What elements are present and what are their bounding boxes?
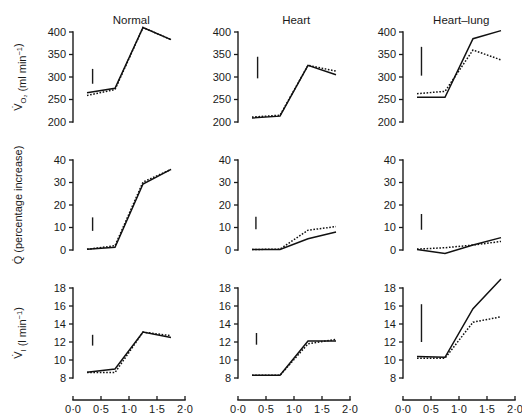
y-tick-label: 12	[219, 336, 231, 348]
panel-q-heart: 010203040	[219, 154, 336, 256]
y-axis-title-vi: V̇I (l min−1)	[12, 307, 28, 359]
y-tick-label: 40	[219, 154, 231, 166]
panel-vo2-heart: 200250300350400	[213, 26, 336, 128]
y-tick-label: 40	[384, 154, 396, 166]
y-tick-label: 18	[384, 282, 396, 294]
x-tick-label: 0·0	[395, 403, 411, 415]
x-tick-label: 1·0	[121, 403, 137, 415]
panel-vi-normal: 810121416180·00·51·01·52·0	[54, 282, 193, 415]
y-axis-title-q: Q̇ (percentage increase)	[12, 146, 24, 265]
y-tick-label: 350	[213, 48, 231, 60]
y-tick-label: 200	[378, 116, 396, 128]
y-tick-label: 16	[384, 300, 396, 312]
series-line-dotted	[252, 65, 336, 117]
y-tick-label: 18	[219, 282, 231, 294]
y-tick-label: 10	[384, 221, 396, 233]
y-tick-label: 300	[213, 71, 231, 83]
panel-vo2-normal: 200250300350400	[48, 26, 171, 128]
y-tick-label: 0	[225, 244, 231, 256]
y-tick-label: 0	[60, 244, 66, 256]
series-line-solid	[417, 279, 501, 357]
y-tick-label: 16	[54, 300, 66, 312]
y-tick-label: 30	[384, 176, 396, 188]
y-tick-label: 200	[48, 116, 66, 128]
y-axis-title-vi-text: V̇I (l min−1)	[12, 307, 28, 359]
x-tick-label: 1·5	[479, 403, 495, 415]
y-tick-label: 350	[378, 48, 396, 60]
panel-q-heartlung: 010203040	[384, 154, 501, 256]
panel-title-heart: Heart	[282, 14, 311, 26]
y-tick-label: 10	[54, 221, 66, 233]
x-tick-label: 0·0	[230, 403, 246, 415]
series-line-solid	[252, 232, 336, 250]
y-tick-label: 20	[54, 199, 66, 211]
y-tick-label: 400	[48, 26, 66, 38]
x-tick-label: 2·0	[177, 403, 193, 415]
y-axis-title-vo2-text: V̇O₂ (ml min−1)	[12, 43, 28, 110]
y-tick-label: 20	[384, 199, 396, 211]
panel-title-heartlung: Heart–lung	[433, 14, 489, 26]
y-tick-label: 18	[54, 282, 66, 294]
y-tick-label: 250	[378, 93, 396, 105]
x-tick-label: 1·5	[149, 403, 165, 415]
multi-panel-line-chart: NormalHeartHeart–lung2002503003504002002…	[0, 0, 522, 419]
y-tick-label: 10	[219, 354, 231, 366]
panel-q-normal: 010203040	[54, 154, 171, 256]
y-tick-label: 300	[378, 71, 396, 83]
panel-vi-heartlung: 810121416180·00·51·01·52·0	[384, 279, 522, 415]
y-tick-label: 8	[60, 372, 66, 384]
panel-vi-heart: 810121416180·00·51·01·52·0	[219, 282, 358, 415]
y-tick-label: 8	[225, 372, 231, 384]
series-line-dotted	[417, 317, 501, 358]
series-line-dotted	[87, 332, 171, 373]
panel-vo2-heartlung: 200250300350400	[378, 26, 501, 128]
y-tick-label: 14	[219, 318, 231, 330]
y-tick-label: 0	[390, 244, 396, 256]
series-line-solid	[417, 238, 501, 254]
y-tick-label: 400	[213, 26, 231, 38]
y-tick-label: 10	[54, 354, 66, 366]
y-tick-label: 10	[384, 354, 396, 366]
y-tick-label: 400	[378, 26, 396, 38]
y-tick-label: 40	[54, 154, 66, 166]
series-line-solid	[252, 341, 336, 375]
series-line-dotted	[87, 28, 171, 96]
y-tick-label: 350	[48, 48, 66, 60]
panel-title-normal: Normal	[113, 14, 150, 26]
y-tick-label: 200	[213, 116, 231, 128]
x-tick-label: 1·0	[286, 403, 302, 415]
y-axis-title-vo2: V̇O₂ (ml min−1)	[12, 43, 28, 110]
y-tick-label: 12	[54, 336, 66, 348]
x-tick-label: 1·5	[314, 403, 330, 415]
y-tick-label: 16	[219, 300, 231, 312]
y-tick-label: 12	[384, 336, 396, 348]
y-tick-label: 20	[219, 199, 231, 211]
series-line-solid	[87, 332, 171, 372]
y-tick-label: 10	[219, 221, 231, 233]
x-tick-label: 2·0	[342, 403, 358, 415]
series-line-dotted	[87, 169, 171, 249]
figure-container: NormalHeartHeart–lung2002503003504002002…	[0, 0, 522, 419]
x-tick-label: 0·5	[93, 403, 109, 415]
series-line-dotted	[252, 227, 336, 250]
x-tick-label: 2·0	[507, 403, 522, 415]
y-axis-title-q-text: Q̇ (percentage increase)	[12, 146, 24, 265]
y-tick-label: 250	[213, 93, 231, 105]
x-tick-label: 0·0	[65, 403, 81, 415]
x-tick-label: 1·0	[451, 403, 467, 415]
x-tick-label: 0·5	[423, 403, 439, 415]
y-tick-label: 14	[384, 318, 396, 330]
y-tick-label: 300	[48, 71, 66, 83]
series-line-solid	[87, 169, 171, 249]
series-line-dotted	[417, 50, 501, 94]
y-tick-label: 14	[54, 318, 66, 330]
y-tick-label: 8	[390, 372, 396, 384]
series-line-dotted	[417, 241, 501, 249]
y-tick-label: 30	[219, 176, 231, 188]
y-tick-label: 30	[54, 176, 66, 188]
series-line-solid	[417, 31, 501, 98]
y-tick-label: 250	[48, 93, 66, 105]
x-tick-label: 0·5	[258, 403, 274, 415]
